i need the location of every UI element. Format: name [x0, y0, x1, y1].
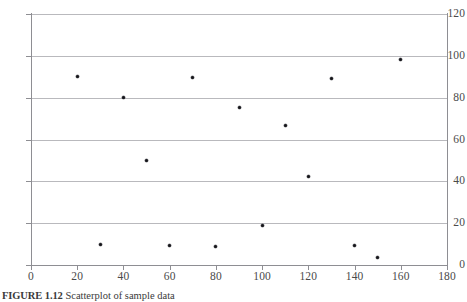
scatter-point — [122, 96, 125, 99]
scatter-point — [261, 224, 264, 227]
x-tick-label-160: 160 — [381, 270, 421, 282]
y-tick-label-60: 60 — [441, 134, 465, 146]
scatter-point — [214, 245, 217, 248]
scatter-point — [145, 159, 148, 162]
gridline-y-40 — [31, 181, 447, 182]
x-tick-label-60: 60 — [150, 270, 190, 282]
y-tick-label-0: 0 — [441, 259, 465, 271]
x-tick-label-20: 20 — [57, 270, 97, 282]
x-tick-label-140: 140 — [335, 270, 375, 282]
plot-area — [31, 14, 447, 265]
scatter-point — [284, 124, 287, 127]
y-tick-label-20: 20 — [441, 217, 465, 229]
scatter-point — [376, 256, 379, 259]
x-tick-label-180: 180 — [427, 270, 467, 282]
y-tick-label-80: 80 — [441, 92, 465, 104]
figure-caption-label: FIGURE 1.12 — [2, 290, 63, 301]
scatter-point — [99, 243, 102, 246]
y-tick-label-120: 120 — [441, 8, 465, 20]
y-tick-100 — [26, 56, 31, 57]
x-tick-label-0: 0 — [11, 270, 51, 282]
scatter-point — [307, 175, 310, 178]
scatter-point — [399, 58, 402, 61]
x-tick-label-80: 80 — [196, 270, 236, 282]
scatter-point — [191, 76, 194, 79]
x-axis-line — [31, 265, 448, 266]
scatter-point — [353, 244, 356, 247]
y-tick-label-100: 100 — [441, 50, 465, 62]
scatter-point — [238, 106, 241, 109]
y-tick-80 — [26, 98, 31, 99]
x-tick-label-120: 120 — [288, 270, 328, 282]
x-tick-label-40: 40 — [103, 270, 143, 282]
y-tick-120 — [26, 14, 31, 15]
scatter-point — [168, 244, 171, 247]
figure-caption: FIGURE 1.12 Scatterplot of sample data — [2, 290, 463, 302]
y-tick-20 — [26, 223, 31, 224]
gridline-y-120 — [31, 14, 447, 15]
x-tick-label-100: 100 — [242, 270, 282, 282]
y-tick-label-40: 40 — [441, 175, 465, 187]
y-tick-40 — [26, 181, 31, 182]
gridline-y-20 — [31, 223, 447, 224]
figure-caption-text: Scatterplot of sample data — [65, 290, 174, 301]
gridline-y-100 — [31, 56, 447, 57]
scatter-point — [76, 75, 79, 78]
gridline-y-80 — [31, 98, 447, 99]
y-tick-60 — [26, 140, 31, 141]
y-axis-line — [31, 13, 32, 266]
gridline-y-60 — [31, 140, 447, 141]
scatter-point — [330, 77, 333, 80]
